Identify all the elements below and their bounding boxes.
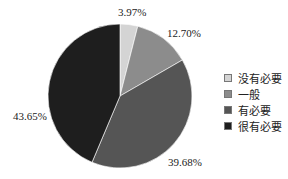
legend-item-no-need: 没有必要 (224, 70, 282, 86)
data-label-neutral: 12.70% (167, 27, 201, 39)
legend-swatch (224, 106, 232, 114)
data-label-no-need: 3.97% (118, 6, 146, 18)
legend-swatch (224, 90, 232, 98)
data-label-very-necessary: 43.65% (13, 110, 47, 122)
legend-swatch (224, 74, 232, 82)
legend-item-neutral: 一般 (224, 86, 282, 102)
legend-label: 没有必要 (238, 70, 282, 86)
data-label-necessary: 39.68% (168, 156, 202, 168)
legend-swatch (224, 122, 232, 130)
legend-label: 一般 (238, 86, 260, 102)
legend-label: 有必要 (238, 102, 271, 118)
legend-item-very-necessary: 很有必要 (224, 118, 282, 134)
legend-item-necessary: 有必要 (224, 102, 282, 118)
legend: 没有必要 一般 有必要 很有必要 (224, 70, 282, 134)
legend-label: 很有必要 (238, 118, 282, 134)
